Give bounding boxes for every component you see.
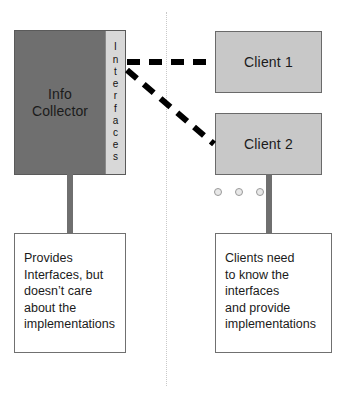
- note-provider-line-3: doesn’t care: [24, 283, 116, 300]
- note-clients-line-4: and provide: [225, 300, 322, 317]
- more-clients-ellipsis: [214, 186, 264, 198]
- note-provider-line-5: implementations: [24, 316, 116, 333]
- client-1-label: Client 1: [244, 54, 293, 70]
- info-collector-label-line-2: Collector: [32, 103, 88, 120]
- interfaces-letter-7: a: [113, 115, 119, 127]
- note-provider: Provides Interfaces, but doesn’t care ab…: [14, 233, 126, 353]
- client-2-label: Client 2: [244, 136, 293, 152]
- interfaces-letter-6: f: [114, 103, 117, 115]
- note-provider-line-1: Provides: [24, 250, 116, 267]
- interfaces-letter-5: r: [114, 90, 117, 102]
- interfaces-letter-2: n: [113, 54, 119, 66]
- interfaces-letter-10: s: [113, 151, 118, 163]
- info-collector-label: Info Collector: [15, 31, 105, 174]
- connector-info-collector-to-note: [67, 174, 73, 234]
- note-clients-line-2: to know the: [225, 267, 322, 284]
- interfaces-letter-1: I: [114, 41, 117, 53]
- note-clients-line-5: implementations: [225, 316, 322, 333]
- info-collector-label-line-1: Info: [48, 86, 72, 103]
- client-1-box[interactable]: Client 1: [215, 31, 322, 93]
- ellipsis-dot-1: [214, 188, 222, 196]
- note-provider-line-2: Interfaces, but: [24, 267, 116, 284]
- ellipsis-dot-2: [235, 188, 243, 196]
- interfaces-letter-9: e: [113, 139, 119, 151]
- relation-line-to-client-2: [127, 70, 214, 144]
- note-clients-line-1: Clients need: [225, 250, 322, 267]
- connector-client-2-to-note: [266, 174, 272, 234]
- ellipsis-dot-3: [256, 188, 264, 196]
- note-provider-line-4: about the: [24, 300, 116, 317]
- interfaces-strip[interactable]: I n t e r f a c e s: [105, 31, 125, 174]
- client-2-box[interactable]: Client 2: [215, 113, 322, 175]
- note-clients: Clients need to know the interfaces and …: [215, 233, 332, 353]
- vertical-divider: [166, 12, 167, 386]
- info-collector-box[interactable]: Info Collector I n t e r f a c e s: [14, 30, 126, 175]
- diagram-canvas: Info Collector I n t e r f a c e s Clien…: [0, 0, 344, 397]
- interfaces-letter-8: c: [113, 127, 118, 139]
- interfaces-letter-3: t: [114, 66, 117, 78]
- note-clients-line-3: interfaces: [225, 283, 322, 300]
- interfaces-letter-4: e: [113, 78, 119, 90]
